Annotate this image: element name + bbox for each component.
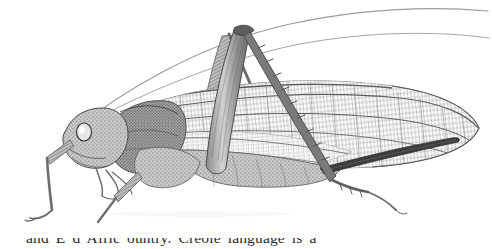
page-body-text-content: and E d Afric ountry. Creole language is… xyxy=(26,238,317,247)
page-body-text: and E d Afric ountry. Creole language is… xyxy=(0,238,492,249)
compound-eye xyxy=(77,123,92,141)
katydid-illustration xyxy=(0,0,492,232)
katydid-vector xyxy=(0,0,492,232)
illustration-page: and E d Afric ountry. Creole language is… xyxy=(0,0,492,249)
